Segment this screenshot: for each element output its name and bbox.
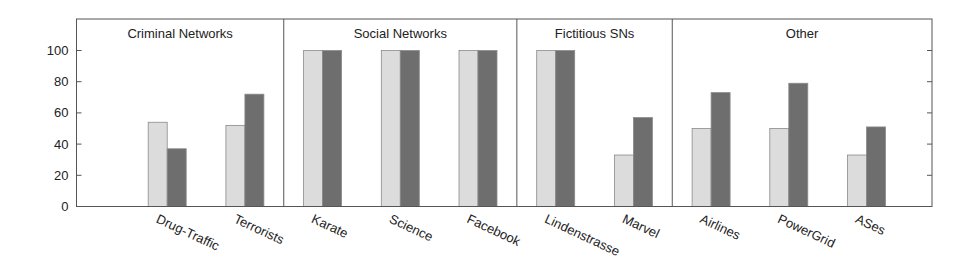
bar-marvel-series-dark (633, 118, 652, 207)
x-label-karate: Karate (309, 211, 350, 241)
y-tick-label: 80 (54, 74, 68, 89)
y-tick-label: 60 (54, 105, 68, 120)
bar-marvel-series-light (614, 155, 633, 206)
x-label-airlines: Airlines (698, 211, 743, 243)
bar-facebook-series-light (459, 51, 478, 207)
bar-science-series-dark (400, 51, 419, 207)
bar-terrorists-series-dark (245, 94, 264, 206)
y-tick-label: 0 (61, 199, 68, 214)
x-label-lindenstrasse: Lindenstrasse (542, 211, 622, 259)
bar-facebook-series-dark (478, 51, 497, 207)
bar-karate-series-light (304, 51, 323, 207)
bar-airlines-series-dark (711, 93, 730, 207)
group-title-criminal-networks: Criminal Networks (127, 26, 233, 41)
bar-drug-traffic-series-dark (167, 149, 186, 207)
bar-lindenstrasse-series-dark (556, 51, 575, 207)
x-label-science: Science (387, 211, 435, 244)
x-label-facebook: Facebook (465, 211, 524, 249)
y-tick-label: 40 (54, 137, 68, 152)
group-titles: Criminal NetworksSocial NetworksFictitio… (127, 26, 819, 41)
group-title-social-networks: Social Networks (354, 26, 448, 41)
bar-powergrid-series-dark (789, 83, 808, 206)
x-label-terrorists: Terrorists (232, 211, 287, 247)
bar-ases-series-light (848, 155, 867, 206)
bar-ases-series-dark (867, 127, 886, 207)
bar-lindenstrasse-series-light (537, 51, 556, 207)
bars (77, 51, 933, 207)
bar-airlines-series-light (692, 129, 711, 207)
group-title-fictitious-sns: Fictitious SNs (555, 26, 635, 41)
x-label-drug-traffic: Drug-Traffic (154, 211, 222, 254)
bar-science-series-light (381, 51, 400, 207)
bar-terrorists-series-light (226, 125, 245, 206)
y-tick-label: 20 (54, 168, 68, 183)
x-label-marvel: Marvel (620, 211, 662, 241)
y-tick-label: 100 (47, 43, 69, 58)
group-title-other: Other (786, 26, 819, 41)
bar-drug-traffic-series-light (148, 122, 167, 206)
x-label-ases: ASes (853, 211, 888, 238)
x-label-powergrid: PowerGrid (776, 211, 838, 251)
x-axis-labels: Drug-TrafficTerroristsKarateScienceFaceb… (154, 211, 888, 259)
bar-powergrid-series-light (770, 129, 789, 207)
grouped-bar-chart: 020406080100 Criminal NetworksSocial Net… (0, 0, 980, 279)
bar-karate-series-dark (323, 51, 342, 207)
